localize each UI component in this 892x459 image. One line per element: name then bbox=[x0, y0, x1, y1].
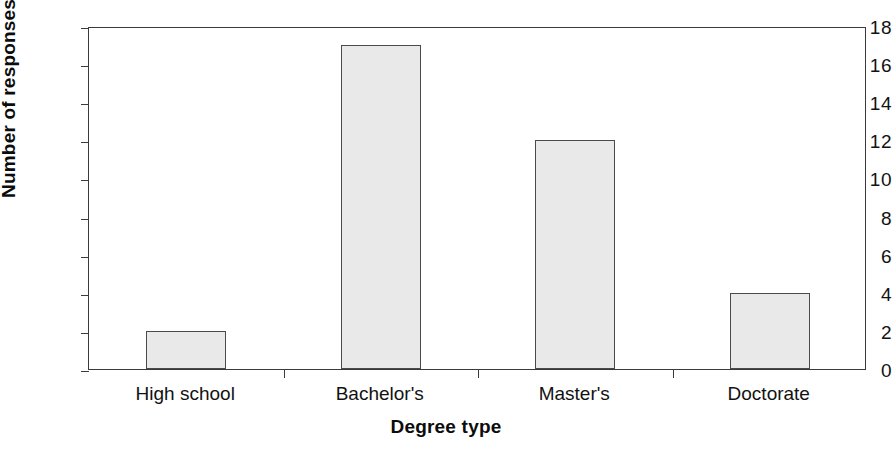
y-axis-tick-mark bbox=[81, 66, 89, 67]
x-axis-category-label: High school bbox=[136, 383, 235, 405]
x-axis-tick-mark bbox=[673, 369, 674, 378]
x-axis-tick-mark bbox=[284, 369, 285, 378]
y-axis-tick-mark bbox=[81, 257, 89, 258]
y-axis-tick-mark bbox=[81, 295, 89, 296]
x-axis-title: Degree type bbox=[0, 416, 892, 438]
bar bbox=[341, 45, 421, 369]
y-axis-tick-mark bbox=[81, 180, 89, 181]
y-axis-tick-mark bbox=[81, 104, 89, 105]
x-axis-category-label: Doctorate bbox=[728, 383, 810, 405]
bar bbox=[730, 293, 810, 369]
y-axis-tick-mark bbox=[81, 28, 89, 29]
y-axis-tick-mark bbox=[81, 333, 89, 334]
bar-chart-figure: Number of responses 024681012141618 Degr… bbox=[0, 0, 892, 459]
x-axis-tick-mark bbox=[478, 369, 479, 378]
y-axis-tick-mark bbox=[81, 219, 89, 220]
y-axis-tick-mark bbox=[81, 142, 89, 143]
plot-area bbox=[88, 27, 866, 370]
bar bbox=[535, 140, 615, 369]
y-axis-tick-mark bbox=[81, 371, 89, 372]
y-axis-title: Number of responses bbox=[0, 0, 20, 198]
bar bbox=[146, 331, 226, 369]
x-axis-category-label: Master's bbox=[539, 383, 610, 405]
x-axis-category-label: Bachelor's bbox=[336, 383, 424, 405]
